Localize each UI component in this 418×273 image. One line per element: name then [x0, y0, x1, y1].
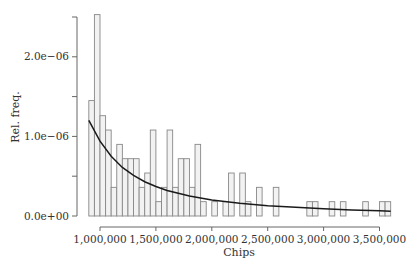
histogram-bar: [117, 144, 123, 216]
histogram-bar: [385, 202, 391, 216]
y-tick-label: 0.0e+00: [24, 210, 69, 222]
histogram-bar: [257, 187, 263, 216]
histogram-bar: [212, 202, 218, 216]
histogram-bar: [240, 173, 246, 216]
histogram-bar: [273, 187, 279, 216]
y-axis: 0.0e+001.0e−062.0e−06: [24, 17, 77, 222]
x-tick-label: 2,500,000: [241, 233, 294, 245]
histogram-bar: [94, 15, 100, 216]
x-tick-label: 3,000,000: [297, 233, 350, 245]
histogram-bar: [363, 202, 369, 216]
histogram-bar: [139, 187, 145, 216]
histogram-bar: [150, 130, 156, 216]
histogram-bar: [161, 187, 167, 216]
histogram-bar: [128, 159, 134, 216]
histogram-bar: [89, 101, 95, 216]
histogram-bar: [145, 173, 151, 216]
histogram-bar: [100, 116, 106, 216]
histogram-bar: [156, 202, 162, 216]
histogram-bar: [229, 173, 235, 216]
histogram-bar: [201, 202, 207, 216]
x-axis-title: Chips: [223, 246, 255, 259]
histogram-chart: 0.0e+001.0e−062.0e−06 1,000,0001,500,000…: [0, 0, 418, 273]
histogram-bar: [167, 130, 173, 216]
histogram-bar: [380, 202, 386, 216]
histogram-bar: [189, 187, 195, 216]
x-tick-label: 1,000,000: [73, 233, 126, 245]
x-tick-label: 2,000,000: [185, 233, 238, 245]
x-tick-label: 3,500,000: [353, 233, 406, 245]
y-tick-label: 1.0e−06: [24, 130, 69, 142]
y-axis-title: Rel. freq.: [9, 91, 22, 143]
x-tick-label: 1,500,000: [129, 233, 182, 245]
histogram-bar: [178, 159, 184, 216]
histogram-bar: [195, 144, 201, 216]
histogram-bar: [223, 202, 229, 216]
histogram-bar: [111, 187, 117, 216]
histogram-bar: [134, 159, 140, 216]
y-tick-label: 2.0e−06: [24, 50, 69, 62]
histogram-bar: [184, 159, 190, 216]
histogram-bar: [106, 130, 112, 216]
x-axis: 1,000,0001,500,0002,000,0002,500,0003,00…: [73, 227, 406, 245]
histogram-bars: [89, 15, 391, 216]
